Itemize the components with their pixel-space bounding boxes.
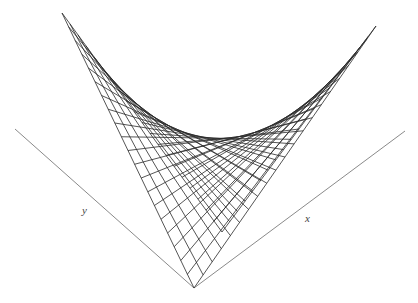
mesh-line-v (62, 13, 222, 232)
mesh-line-v (115, 123, 284, 150)
mesh-line-v (75, 41, 237, 212)
mesh-line-v (161, 78, 338, 220)
mesh-line-v (69, 27, 230, 222)
x-axis-line (194, 131, 405, 288)
y-axis-label: y (81, 204, 87, 216)
mesh-line-v (95, 82, 261, 181)
mesh-line-v (102, 96, 269, 171)
mesh-line-v (181, 47, 361, 261)
x-axis-label: x (304, 212, 310, 224)
mesh-line-v (168, 67, 346, 233)
mesh-line-v (187, 36, 368, 274)
saddle-mesh (62, 13, 376, 288)
saddle-surface-figure: x y (0, 0, 418, 303)
